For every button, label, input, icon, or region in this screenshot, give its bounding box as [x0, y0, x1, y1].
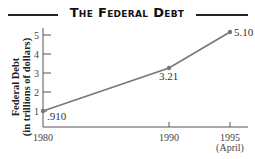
chart-plot: 5 4 3 2 1 1980 1990 1995 (April) .910 3.…: [0, 0, 255, 159]
x-tick-1980: 1980: [33, 132, 53, 143]
data-label-1995: 5.10: [234, 26, 254, 38]
y-tick-5: 5: [34, 30, 39, 41]
x-tick-1990: 1990: [159, 132, 179, 143]
data-point-1980: [41, 109, 45, 113]
y-tick-3: 3: [34, 68, 39, 79]
y-tick-1: 1: [34, 106, 39, 117]
data-point-1995: [228, 30, 232, 34]
y-tick-4: 4: [34, 49, 39, 60]
x-tick-april: (April): [216, 142, 244, 154]
debt-series-line: [43, 32, 230, 111]
data-label-1980: .910: [47, 110, 67, 122]
y-tick-2: 2: [34, 87, 39, 98]
data-label-1990: 3.21: [159, 70, 178, 82]
